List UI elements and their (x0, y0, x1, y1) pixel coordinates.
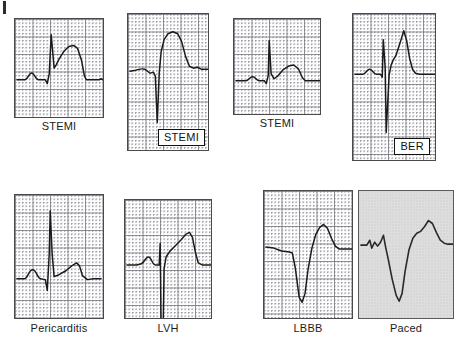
ecg-trace-lvh (125, 200, 211, 318)
ecg-trace-lbbb (264, 191, 352, 318)
ecg-caption-stemi-1: STEMI (14, 120, 104, 132)
ecg-grid-background (14, 18, 104, 118)
ecg-comparison-figure: STEMI STEMI STEMI BER (0, 0, 456, 348)
ecg-trace-pericarditis (15, 195, 103, 318)
ecg-caption-pericarditis: Pericarditis (9, 322, 109, 334)
ecg-inset-label-stemi-2: STEMI (158, 129, 205, 146)
ecg-panel-stemi-1 (14, 18, 104, 118)
ecg-panel-stemi-2: STEMI (127, 13, 209, 151)
ecg-caption-lbbb: LBBB (263, 322, 353, 334)
ecg-grid-background (263, 190, 353, 319)
ecg-caption-paced: Paced (358, 322, 454, 334)
ecg-trace-stemi-3 (234, 19, 320, 114)
ecg-panel-lbbb (263, 190, 353, 319)
page-edge-artifact (3, 1, 6, 14)
ecg-panel-paced (358, 190, 454, 319)
ecg-panel-lvh (124, 199, 212, 319)
ecg-panel-stemi-3 (233, 18, 321, 115)
ecg-trace-paced (359, 191, 453, 318)
ecg-caption-stemi-3: STEMI (233, 117, 321, 129)
ecg-caption-lvh: LVH (124, 322, 212, 334)
ecg-grid-background (233, 18, 321, 115)
ecg-plain-background (358, 190, 454, 319)
ecg-panel-ber: BER (352, 13, 436, 161)
ecg-trace-stemi-1 (15, 19, 103, 117)
ecg-grid-background (124, 199, 212, 319)
ecg-panel-pericarditis (14, 194, 104, 319)
ecg-grid-background (14, 194, 104, 319)
ecg-inset-label-ber: BER (394, 138, 430, 155)
